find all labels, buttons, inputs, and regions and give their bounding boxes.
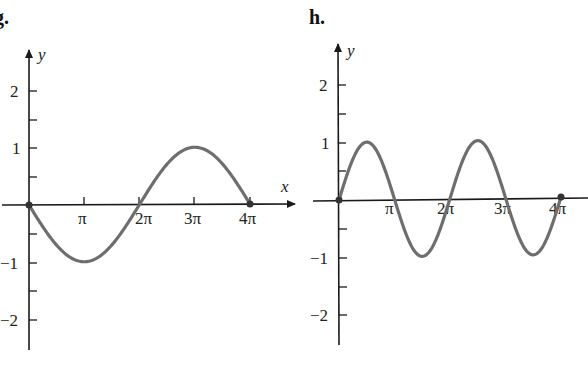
panel-label-g: g. [0,6,9,29]
figure: g. y 2 1 −1 −2 x π 2π 3π 4π [0,0,588,370]
y-tick-label: 1 [12,139,21,158]
endpoint-marker [336,197,343,204]
y-tick-label: −1 [310,249,328,268]
y-tick-label: −2 [0,311,18,330]
endpoint-marker [247,201,254,208]
endpoint-marker [558,194,565,201]
y-axis-label: y [36,45,46,64]
chart-h: h. y 2 1 −1 −2 π 2π 3π 4π [309,6,588,345]
endpoint-marker [26,202,33,209]
y-tick-label: 2 [10,82,19,101]
y-tick-label: 2 [319,76,328,95]
y-tick-label: −2 [310,306,328,325]
x-axis-label: x [280,177,289,196]
x-tick-label: 3π [184,209,202,228]
y-axis [338,44,339,345]
x-tick-label: 2π [135,209,153,228]
x-tick-label: π [385,199,394,218]
panel-label-h: h. [309,6,325,28]
y-tick-label: −1 [0,254,18,273]
y-tick-label: 1 [321,134,330,153]
x-tick-label: π [78,209,87,228]
x-tick-label: 4π [239,209,257,228]
y-axis-label: y [345,41,355,60]
chart-g: g. y 2 1 −1 −2 x π 2π 3π 4π [0,6,295,350]
